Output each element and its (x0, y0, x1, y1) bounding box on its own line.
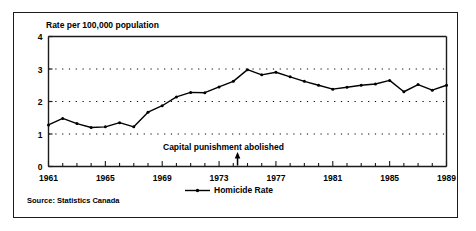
x-tick-label: 1969 (142, 173, 182, 183)
y-tick-label: 4 (29, 32, 43, 42)
gridlines (49, 69, 447, 134)
chart-plot (0, 0, 476, 231)
y-tick-label: 3 (29, 65, 43, 75)
x-tick-label: 1973 (199, 173, 239, 183)
y-tick-label: 1 (29, 130, 43, 140)
x-axis-ticks (49, 161, 447, 167)
x-tick-label: 1981 (313, 173, 353, 183)
x-tick-label: 1977 (256, 173, 296, 183)
legend-marker-icon (185, 189, 210, 192)
x-tick-label: 1985 (370, 173, 410, 183)
y-tick-label: 0 (29, 162, 43, 172)
x-tick-label: 1965 (85, 173, 125, 183)
axes-lines (49, 37, 447, 167)
homicide-rate-line (49, 70, 447, 128)
annotation-arrow-icon (235, 152, 241, 166)
x-tick-label: 1989 (427, 173, 467, 183)
figure-container: Rate per 100,000 population Capital puni… (0, 0, 476, 231)
homicide-rate-markers (47, 68, 448, 129)
y-tick-label: 2 (29, 97, 43, 107)
x-tick-label: 1961 (29, 173, 69, 183)
